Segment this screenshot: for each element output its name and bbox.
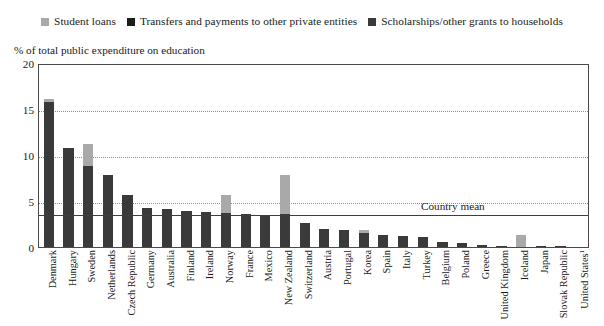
x-axis-label: Netherlands [107,250,117,300]
x-axis-label-wrap: Austria [314,250,334,326]
country-mean-line [39,215,588,216]
bar-segment [516,235,526,247]
bar-stack[interactable] [300,223,310,247]
bar-segment [241,214,251,247]
x-axis-label: Finland [186,250,196,281]
bar-stack[interactable] [122,195,132,247]
x-axis-label-wrap: Japan [530,250,550,326]
bar-segment [63,148,73,247]
x-axis-label-wrap: Spain [373,250,393,326]
bar-column [98,65,118,247]
bar-segment [319,229,329,247]
bar-stack[interactable] [44,99,54,247]
x-axis-label: Mexico [264,250,274,281]
bar-column [531,65,551,247]
bar-stack[interactable] [378,235,388,247]
bar-segment [457,243,467,247]
bar-column [452,65,472,247]
x-axis-label-wrap: New Zealand [274,250,294,326]
x-axis-label: Austria [323,250,333,280]
x-axis-label-wrap: Ireland [195,250,215,326]
x-axis-label: Turkey [422,250,432,279]
bar-segment [103,175,113,247]
bar-column [433,65,453,247]
x-axis-label: Portugal [343,250,353,285]
bar-column [472,65,492,247]
bar-stack[interactable] [201,212,211,247]
x-axis-label: Switzerland [304,250,314,299]
plot-inner: Country mean [39,65,588,247]
bar-stack[interactable] [181,211,191,247]
x-axis-label-wrap: Italy [392,250,412,326]
bar-stack[interactable] [496,246,506,247]
bar-column [570,65,590,247]
x-axis-label: Australia [166,250,176,288]
x-axis-label-wrap: Korea [353,250,373,326]
x-axis-label: New Zealand [284,250,294,305]
bar-stack[interactable] [457,243,467,247]
bar-segment [496,246,506,247]
x-axis-label: Czech Republic [127,250,137,315]
bar-stack[interactable] [241,214,251,247]
y-axis-tick-15: 15 [6,104,34,116]
bar-column [196,65,216,247]
bar-stack[interactable] [280,175,290,247]
x-axis-label-wrap: Turkey [412,250,432,326]
bar-column [374,65,394,247]
bar-series-group [39,65,588,247]
x-axis-label: Sweden [87,250,97,283]
bar-segment [536,246,546,247]
legend-swatch-transfers-payments [127,18,135,26]
bar-segment [477,245,487,247]
bar-column [275,65,295,247]
legend-swatch-scholarships-grants [368,18,376,26]
bar-stack[interactable] [418,237,428,247]
bar-stack[interactable] [398,236,408,247]
y-axis: 05101520 [0,64,34,248]
bar-segment [339,230,349,247]
bar-segment [181,211,191,247]
bar-stack[interactable] [319,229,329,247]
bar-stack[interactable] [359,230,369,247]
bar-stack[interactable] [437,242,447,247]
bar-column [334,65,354,247]
bar-segment [280,175,290,214]
bar-stack[interactable] [555,246,565,247]
x-axis-label-wrap: Denmark [38,250,58,326]
bar-segment [418,237,428,247]
x-axis-label: Italy [402,250,412,269]
bar-column [393,65,413,247]
bar-column [511,65,531,247]
x-axis-label: Greece [481,250,491,279]
bar-stack[interactable] [516,235,526,247]
legend-item-student-loans: Student loans [41,16,116,27]
x-axis-label: Spain [382,250,392,273]
legend-swatch-student-loans [41,18,49,26]
bar-stack[interactable] [339,230,349,247]
bar-stack[interactable] [103,175,113,247]
bar-column [236,65,256,247]
bar-stack[interactable] [477,245,487,247]
bar-stack[interactable] [63,148,73,247]
x-axis-label-wrap: Sweden [77,250,97,326]
x-axis-label: France [245,250,255,278]
legend-label-scholarships-grants: Scholarships/other grants to households [381,16,563,27]
x-axis-label: Japan [540,250,550,273]
bar-segment [44,102,54,247]
bar-stack[interactable] [260,215,270,247]
plot-area: Country mean [38,64,589,248]
bar-column [295,65,315,247]
legend-label-student-loans: Student loans [54,16,116,27]
y-axis-tick-5: 5 [6,196,34,208]
bar-stack[interactable] [221,195,231,247]
x-axis-label-wrap: Iceland [510,250,530,326]
bar-stack[interactable] [83,144,93,247]
bar-segment [378,235,388,247]
bar-segment [122,195,132,247]
x-axis-label-wrap: Netherlands [97,250,117,326]
bar-column [137,65,157,247]
bar-segment [201,212,211,247]
bar-column [255,65,275,247]
bar-stack[interactable] [536,246,546,247]
x-axis-label-wrap: Norway [215,250,235,326]
